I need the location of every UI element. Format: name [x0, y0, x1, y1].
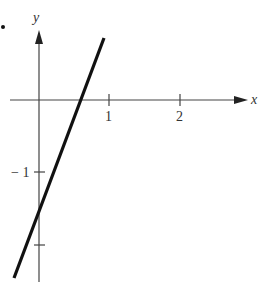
bullet-marker: [1, 25, 5, 29]
x-axis-arrow-icon: [234, 96, 248, 104]
plotted-line: [14, 38, 104, 278]
y-axis-label: y: [31, 10, 40, 25]
y-axis-arrow-icon: [35, 30, 43, 44]
y-tick-label-neg1: − 1: [11, 165, 29, 180]
x-tick-label-2: 2: [176, 109, 183, 124]
coordinate-plot: 1 2 − 1 x y: [0, 0, 263, 290]
x-axis-label: x: [250, 92, 258, 107]
x-tick-label-1: 1: [105, 109, 112, 124]
